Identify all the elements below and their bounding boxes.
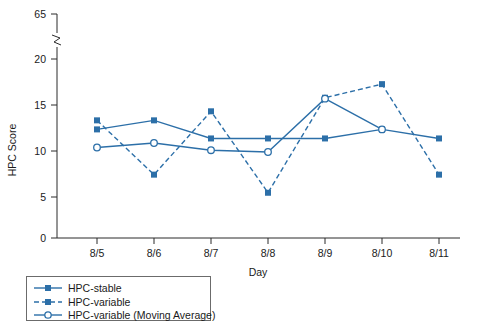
x-tick-label-2: 8/7 bbox=[204, 247, 219, 259]
legend-marker-filled-square-icon bbox=[45, 299, 51, 305]
data-point-filled-square[interactable] bbox=[94, 126, 100, 132]
data-point-filled-square[interactable] bbox=[436, 172, 442, 178]
data-point-filled-square[interactable] bbox=[208, 135, 214, 141]
x-axis: 8/5 8/6 8/7 8/8 8/9 8/10 8/11 Day bbox=[57, 238, 460, 278]
x-tick-label-6: 8/11 bbox=[429, 247, 449, 259]
data-point-filled-square[interactable] bbox=[208, 108, 214, 114]
x-tick-label-1: 8/6 bbox=[147, 247, 162, 259]
legend-marker-open-circle-icon bbox=[45, 312, 51, 318]
legend-label-0: HPC-stable bbox=[68, 282, 122, 294]
y-axis: 65 20 15 10 5 0 HPC Score bbox=[6, 8, 61, 244]
series-hpc-stable bbox=[94, 117, 442, 141]
legend: HPC-stable HPC-variable HPC-variable (Mo… bbox=[27, 277, 216, 322]
legend-label-2: HPC-variable (Moving Average) bbox=[68, 309, 215, 321]
data-point-filled-square[interactable] bbox=[94, 117, 100, 123]
legend-item-hpc-variable-moving-average[interactable]: HPC-variable (Moving Average) bbox=[34, 309, 215, 321]
y-tick-label-10: 10 bbox=[34, 145, 46, 157]
series-hpc-variable-moving-average bbox=[94, 95, 386, 155]
legend-item-hpc-stable[interactable]: HPC-stable bbox=[34, 282, 122, 294]
hpc-score-line-chart: 65 20 15 10 5 0 HPC Score 8/5 8/6 8/7 8/… bbox=[0, 0, 477, 326]
x-axis-title: Day bbox=[249, 266, 268, 278]
legend-label-1: HPC-variable bbox=[68, 296, 131, 308]
x-tick-label-4: 8/9 bbox=[318, 247, 333, 259]
data-point-filled-square[interactable] bbox=[151, 117, 157, 123]
y-tick-label-5: 5 bbox=[40, 191, 46, 203]
data-point-open-circle[interactable] bbox=[208, 147, 215, 154]
data-point-filled-square[interactable] bbox=[151, 172, 157, 178]
y-tick-label-20: 20 bbox=[34, 53, 46, 65]
series-layer bbox=[94, 81, 442, 196]
y-axis-title: HPC Score bbox=[6, 124, 18, 177]
y-tick-label-65: 65 bbox=[34, 8, 46, 20]
data-point-filled-square[interactable] bbox=[265, 190, 271, 196]
x-tick-label-0: 8/5 bbox=[90, 247, 105, 259]
legend-marker-filled-square-icon bbox=[45, 285, 51, 291]
series-line bbox=[97, 99, 382, 152]
data-point-open-circle[interactable] bbox=[94, 144, 101, 151]
y-axis-break-symbol bbox=[52, 35, 61, 45]
legend-item-hpc-variable[interactable]: HPC-variable bbox=[34, 296, 131, 308]
chart-svg: 65 20 15 10 5 0 HPC Score 8/5 8/6 8/7 8/… bbox=[0, 0, 477, 326]
x-tick-label-5: 8/10 bbox=[372, 247, 393, 259]
data-point-open-circle[interactable] bbox=[265, 149, 272, 156]
data-point-open-circle[interactable] bbox=[322, 95, 329, 102]
data-point-filled-square[interactable] bbox=[265, 135, 271, 141]
y-tick-label-0: 0 bbox=[40, 232, 46, 244]
x-tick-label-3: 8/8 bbox=[261, 247, 276, 259]
data-point-filled-square[interactable] bbox=[379, 81, 385, 87]
data-point-open-circle[interactable] bbox=[151, 140, 158, 147]
data-point-filled-square[interactable] bbox=[436, 135, 442, 141]
y-tick-label-15: 15 bbox=[34, 99, 46, 111]
data-point-filled-square[interactable] bbox=[322, 135, 328, 141]
data-point-open-circle[interactable] bbox=[379, 126, 386, 133]
